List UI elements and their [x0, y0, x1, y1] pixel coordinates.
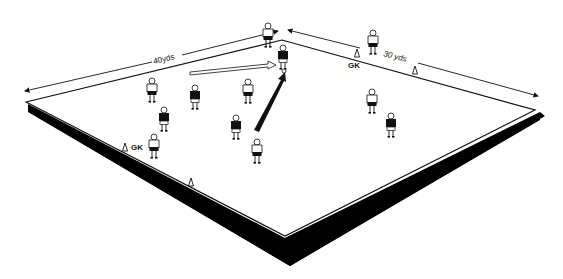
drill-diagram: 40yds 30 yds GK GK — [0, 0, 563, 279]
gk-label-top: GK — [348, 61, 360, 70]
player-light-icon — [368, 30, 378, 55]
ball-icon — [282, 69, 286, 73]
cone-icon — [355, 49, 360, 57]
width-label: 30 yds — [383, 49, 408, 63]
gk-label-left: GK — [131, 143, 143, 152]
length-label: 40yds — [152, 52, 175, 66]
cone-icon — [413, 66, 418, 74]
